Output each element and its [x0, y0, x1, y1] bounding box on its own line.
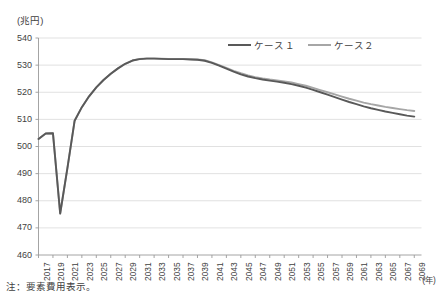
x-tick-label: 2055	[317, 262, 325, 281]
x-tick-label: 2043	[230, 262, 238, 281]
x-tick-label: 2053	[303, 262, 311, 281]
legend-label-case-2: ケース２	[334, 38, 375, 52]
legend-swatch-case-2	[308, 44, 331, 46]
x-tick-label: 2065	[389, 262, 397, 281]
x-tick-label: 2027	[115, 262, 123, 281]
chart-plot-area	[0, 0, 445, 295]
x-tick-label: 2063	[375, 262, 383, 281]
y-tick-label: 480	[8, 196, 32, 205]
x-tick-label: 2059	[346, 262, 354, 281]
x-tick-label: 2045	[245, 262, 253, 281]
y-tick-label: 460	[8, 251, 32, 260]
y-tick-label: 520	[8, 88, 32, 97]
legend-entry-case-2: ケース２	[308, 38, 375, 52]
x-tick-label: 2057	[332, 262, 340, 281]
y-tick-label: 530	[8, 61, 32, 70]
legend-entry-case-1: ケース１	[228, 38, 295, 52]
x-tick-label: 2049	[274, 262, 282, 281]
legend-swatch-case-1	[228, 44, 251, 46]
x-tick-label: 2041	[216, 262, 224, 281]
y-tick-label: 490	[8, 169, 32, 178]
x-tick-label: 2033	[158, 262, 166, 281]
figure-note: 注：要素費用表示。	[6, 279, 96, 293]
x-tick-label: 2037	[187, 262, 195, 281]
x-tick-label: 2025	[100, 262, 108, 281]
x-tick-label: 2039	[201, 262, 209, 281]
x-tick-label: 2067	[404, 262, 412, 281]
x-tick-label: 2029	[129, 262, 137, 281]
x-axis-unit-label: (年)	[422, 273, 436, 285]
x-tick-label: 2061	[360, 262, 368, 281]
y-tick-label: 510	[8, 115, 32, 124]
chart-legend: ケース１ ケース２	[228, 38, 375, 52]
x-tick-label: 2035	[173, 262, 181, 281]
x-tick-label: 2051	[288, 262, 296, 281]
x-tick-label: 2047	[259, 262, 267, 281]
x-tick-label: 2031	[144, 262, 152, 281]
legend-label-case-1: ケース１	[254, 38, 295, 52]
y-tick-label: 540	[8, 34, 32, 43]
figure-container: (兆円) 540530520510500490480470460 2017201…	[0, 0, 445, 295]
y-tick-label: 500	[8, 142, 32, 151]
y-tick-label: 470	[8, 223, 32, 232]
